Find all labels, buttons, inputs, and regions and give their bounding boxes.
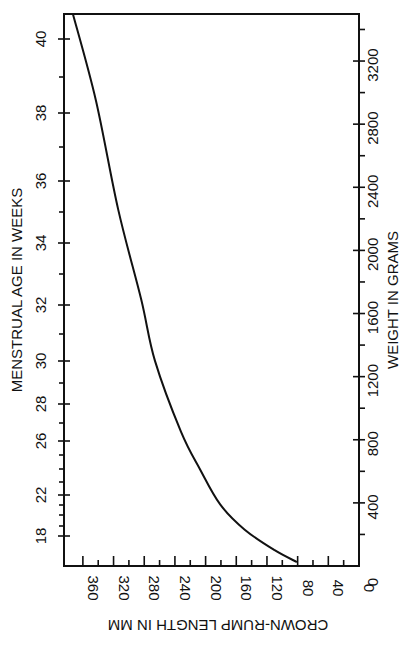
right-axis-title: WEIGHT IN GRAMS	[384, 231, 401, 369]
left-tick-label: 34	[32, 235, 49, 252]
right-tick-label: 1600	[364, 301, 381, 334]
left-tick-label: 30	[32, 353, 49, 370]
bottom-tick-label: 120	[269, 575, 286, 600]
left-axis-title: MENSTRUAL AGE IN WEEKS	[8, 188, 25, 393]
right-tick-label: 2000	[364, 238, 381, 271]
left-tick-label: 18	[32, 528, 49, 545]
fetal-growth-chart: 3603202802402001601208040018222628303234…	[0, 0, 411, 651]
right-tick-label: 2400	[364, 175, 381, 208]
bottom-tick-label: 360	[85, 575, 102, 600]
bottom-tick-label: 200	[208, 575, 225, 600]
right-tick-label: 0	[364, 578, 381, 586]
bottom-tick-label: 240	[177, 575, 194, 600]
right-tick-label: 800	[364, 431, 381, 456]
bottom-axis-title: CROWN-RUMP LENGTH IN MM	[108, 617, 329, 634]
right-tick-label: 3200	[364, 48, 381, 81]
right-tick-label: 400	[364, 494, 381, 519]
right-tick-label: 2800	[364, 111, 381, 144]
left-tick-label: 38	[32, 105, 49, 122]
bottom-tick-label: 160	[238, 575, 255, 600]
left-tick-label: 32	[32, 297, 49, 314]
left-tick-label: 36	[32, 173, 49, 190]
bottom-tick-label: 40	[330, 580, 347, 597]
left-tick-label: 22	[32, 487, 49, 504]
left-tick-label: 40	[32, 31, 49, 48]
left-tick-label: 26	[32, 433, 49, 450]
bottom-tick-label: 80	[300, 580, 317, 597]
bottom-tick-label: 280	[146, 575, 163, 600]
left-tick-label: 28	[32, 396, 49, 413]
bottom-tick-label: 320	[116, 575, 133, 600]
right-tick-label: 1200	[364, 364, 381, 397]
